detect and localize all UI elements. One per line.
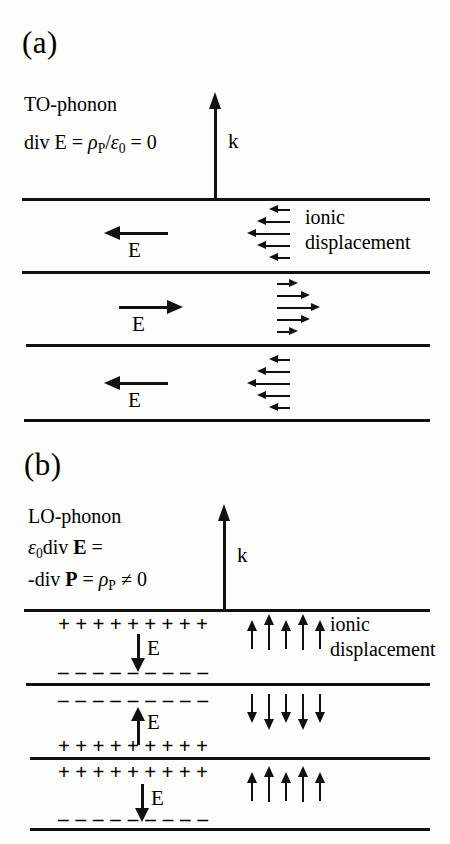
charge-symbol: +	[127, 762, 139, 783]
panel-b-eq2-minus-div: -div	[28, 568, 60, 590]
arrow-shaft	[119, 306, 169, 309]
panel-b-eq1-equals: =	[92, 536, 103, 558]
arrow-shaft	[255, 233, 290, 235]
ionic-displacement-arrow	[281, 694, 292, 723]
arrow-shaft	[285, 628, 287, 649]
ionic-displacement-arrow	[277, 327, 298, 336]
ionic-displacement-arrow	[247, 379, 290, 388]
charge-symbol: –	[58, 690, 69, 711]
arrow-shaft	[277, 307, 312, 309]
panel-b-equation-line2: -div P = ρP ≠ 0	[28, 568, 147, 594]
ionic-displacement-arrow	[257, 217, 290, 226]
arrow-head-icon	[301, 291, 310, 299]
arrow-shaft	[319, 780, 321, 801]
ionic-displacement-arrow	[298, 766, 309, 802]
arrow-shaft	[255, 383, 290, 385]
panel-b-eq2-P: P	[65, 568, 77, 590]
charge-symbol: –	[58, 662, 69, 683]
charge-symbol: +	[179, 762, 191, 783]
arrow-shaft	[277, 257, 290, 259]
arrow-shaft	[265, 245, 290, 247]
ionic-displacement-arrow	[298, 614, 309, 650]
panel-a-field-label: E	[128, 240, 141, 261]
charge-symbol: –	[110, 662, 121, 683]
ionic-displacement-arrow	[315, 620, 326, 649]
ionic-displacement-arrow	[247, 229, 290, 238]
lattice-plane-line	[30, 757, 430, 760]
arrow-head-icon	[247, 712, 257, 723]
charge-symbol: –	[180, 809, 191, 830]
arrow-head-icon	[264, 719, 274, 730]
panel-a-field-arrow	[119, 300, 183, 314]
charge-symbol: –	[93, 809, 104, 830]
ionic-displacement-arrow	[277, 279, 298, 288]
charge-symbol: +	[58, 762, 70, 783]
charge-symbol: –	[75, 690, 86, 711]
panel-b-k-label: k	[237, 545, 248, 566]
charge-row-positive: + + + + + + + + +	[58, 736, 208, 757]
arrow-head-icon	[301, 315, 310, 323]
ionic-displacement-arrow	[315, 694, 326, 723]
charge-symbol: +	[196, 762, 208, 783]
ionic-displacement-arrow	[257, 241, 290, 250]
charge-symbol: +	[196, 736, 208, 757]
charge-symbol: +	[58, 736, 70, 757]
arrow-shaft	[268, 694, 270, 722]
charge-symbol: +	[93, 736, 105, 757]
charge-symbol: +	[162, 762, 174, 783]
arrow-shaft	[118, 382, 168, 385]
arrow-shaft	[302, 774, 304, 802]
panel-a-k-label: k	[228, 131, 239, 152]
ionic-displacement-arrow	[264, 766, 275, 802]
charge-symbol: +	[144, 614, 156, 635]
panel-b-eq1-epsilon-sub: 0	[36, 546, 43, 561]
ionic-displacement-arrow	[277, 303, 320, 312]
charge-symbol: –	[58, 809, 69, 830]
charge-symbol: +	[179, 736, 191, 757]
panel-a-eq-epsilon-sub: 0	[119, 141, 126, 156]
panel-b-field-label: E	[147, 712, 160, 733]
arrow-shaft	[277, 209, 290, 211]
panel-a-displacement-label-line2: displacement	[305, 231, 411, 254]
panel-a-eq-rhs: 0	[147, 131, 157, 153]
charge-row-positive: + + + + + + + + +	[58, 614, 208, 635]
panel-b-label: (b)	[24, 449, 62, 480]
charge-symbol: +	[196, 614, 208, 635]
panel-b-eq2-rho-sub: P	[108, 578, 116, 593]
arrow-shaft	[277, 283, 290, 285]
charge-symbol: –	[163, 690, 174, 711]
ionic-displacement-arrow	[269, 403, 290, 412]
panel-b-title: LO-phonon	[28, 505, 121, 528]
charge-symbol: +	[127, 736, 139, 757]
panel-b-eq1-epsilon: ε	[28, 536, 36, 558]
arrow-shaft	[268, 622, 270, 650]
charge-symbol: –	[145, 690, 156, 711]
panel-a-equation: div E = ρP/ε0 = 0	[24, 131, 157, 157]
charge-row-negative: – – – – – – – – –	[58, 809, 208, 830]
ionic-displacement-arrow	[281, 772, 292, 801]
charge-symbol: +	[127, 614, 139, 635]
charge-symbol: –	[93, 690, 104, 711]
charge-symbol: –	[180, 690, 191, 711]
panel-a-eq-epsilon: ε	[111, 131, 119, 153]
panel-a-field-label: E	[128, 390, 141, 411]
charge-symbol: –	[145, 662, 156, 683]
panel-b-field-label: E	[147, 638, 160, 659]
ionic-displacement-arrow	[247, 772, 258, 801]
ionic-displacement-arrow	[315, 772, 326, 801]
panel-b-displacement-label-line1: ionic	[330, 613, 370, 636]
ionic-displacement-arrow	[281, 620, 292, 649]
charge-symbol: –	[110, 690, 121, 711]
panel-a-eq-equals-1: =	[72, 131, 83, 153]
charge-symbol: +	[162, 614, 174, 635]
panel-b-eq2-rho: ρ	[99, 568, 109, 590]
lattice-plane-line	[26, 683, 430, 686]
arrow-shaft	[319, 628, 321, 649]
charge-symbol: +	[75, 614, 87, 635]
charge-symbol: –	[163, 809, 174, 830]
charge-symbol: +	[110, 736, 122, 757]
charge-symbol: –	[145, 809, 156, 830]
charge-symbol: +	[75, 762, 87, 783]
charge-symbol: –	[128, 662, 139, 683]
charge-symbol: –	[93, 662, 104, 683]
